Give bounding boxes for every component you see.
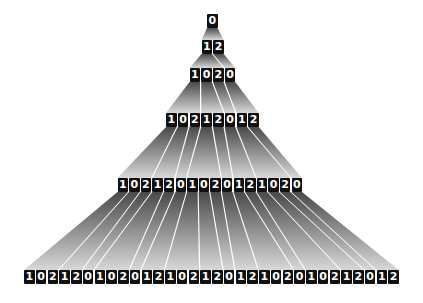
digit-cell: 2: [330, 270, 341, 284]
digit-cell: 0: [294, 270, 305, 284]
digit-cell: 2: [247, 270, 258, 284]
digit-cell: 2: [388, 270, 399, 284]
generation-2-row: 1020: [190, 68, 237, 82]
digit-cell: 2: [212, 270, 223, 284]
digit-cell: 1: [187, 178, 198, 192]
digit-cell: 0: [225, 113, 236, 127]
digit-cell: 2: [210, 178, 221, 192]
digit-cell: 0: [129, 178, 140, 192]
digit-cell: 0: [199, 178, 210, 192]
digit-cell: 1: [166, 113, 177, 127]
digit-cell: 1: [341, 270, 352, 284]
digit-cell: 1: [377, 270, 388, 284]
digit-cell: 2: [71, 270, 82, 284]
expansion-wedge: [202, 28, 224, 40]
digit-cell: 2: [353, 270, 364, 284]
digit-cell: 1: [234, 178, 245, 192]
digit-cell: 0: [106, 270, 117, 284]
digit-cell: 1: [165, 270, 176, 284]
digit-cell: 2: [141, 178, 152, 192]
digit-cell: 2: [245, 178, 256, 192]
digit-cell: 2: [213, 113, 224, 127]
digit-cell: 2: [213, 40, 224, 54]
digit-cell: 1: [237, 113, 248, 127]
digit-cell: 0: [225, 68, 236, 82]
digit-cell: 0: [268, 178, 279, 192]
digit-cell: 1: [259, 270, 270, 284]
digit-cell: 0: [36, 270, 47, 284]
digit-cell: 1: [200, 270, 211, 284]
digit-cell: 0: [177, 270, 188, 284]
digit-cell: 0: [318, 270, 329, 284]
digit-cell: 1: [306, 270, 317, 284]
digit-cell: 0: [207, 14, 218, 28]
digit-cell: 0: [201, 68, 212, 82]
digit-cell: 1: [190, 68, 201, 82]
generation-0-row: 0: [207, 14, 219, 28]
digit-cell: 2: [189, 270, 200, 284]
digit-cell: 2: [283, 270, 294, 284]
digit-cell: 1: [59, 270, 70, 284]
digit-cell: 1: [236, 270, 247, 284]
digit-cell: 0: [178, 113, 189, 127]
digit-cell: 2: [48, 270, 59, 284]
expansion-wedge: [166, 82, 200, 113]
generation-3-row: 10212012: [166, 113, 260, 127]
digit-cell: 0: [292, 178, 303, 192]
generation-4-row: 1021201020121020: [118, 178, 304, 192]
digit-cell: 2: [213, 68, 224, 82]
digit-cell: 1: [24, 270, 35, 284]
digit-cell: 0: [365, 270, 376, 284]
digit-cell: 1: [152, 178, 163, 192]
digit-cell: 0: [271, 270, 282, 284]
digit-cell: 1: [142, 270, 153, 284]
digit-cell: 2: [164, 178, 175, 192]
digit-cell: 1: [202, 40, 213, 54]
digit-cell: 0: [176, 178, 187, 192]
digit-cell: 0: [224, 270, 235, 284]
digit-cell: 1: [118, 178, 129, 192]
digit-cell: 0: [83, 270, 94, 284]
digit-cell: 2: [190, 113, 201, 127]
digit-cell: 2: [280, 178, 291, 192]
digit-cell: 1: [201, 113, 212, 127]
generation-5-row: 10212010201210212012102010212012: [24, 270, 400, 284]
digit-cell: 0: [222, 178, 233, 192]
digit-cell: 2: [153, 270, 164, 284]
generation-1-row: 12: [202, 40, 226, 54]
digit-cell: 2: [118, 270, 129, 284]
digit-cell: 1: [257, 178, 268, 192]
substitution-tree-diagram: 0121020102120121021201020121020102120102…: [0, 0, 423, 303]
digit-cell: 1: [95, 270, 106, 284]
digit-cell: 0: [130, 270, 141, 284]
digit-cell: 2: [248, 113, 259, 127]
